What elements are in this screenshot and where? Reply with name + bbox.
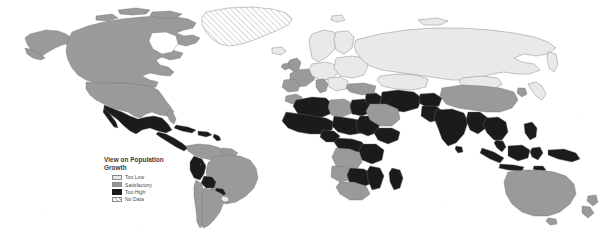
legend-item-no-data: No Data [104,196,192,202]
legend-item-satisfactory: Satisfactory [104,182,192,188]
legend-title: View on Population Growth [104,156,192,171]
legend-swatch-too-low [112,175,122,180]
world-map-figure: View on Population Growth Too Low Satisf… [0,0,607,249]
legend-item-too-high: Too High [104,189,192,195]
legend-item-too-low: Too Low [104,174,192,180]
legend-swatch-no-data [112,197,122,202]
legend-label-too-low: Too Low [125,174,144,180]
legend-label-satisfactory: Satisfactory [125,182,152,188]
legend-label-no-data: No Data [125,196,144,202]
legend-swatch-satisfactory [112,182,122,187]
map-legend: View on Population Growth Too Low Satisf… [104,156,192,204]
legend-swatch-too-high [112,189,122,194]
legend-label-too-high: Too High [125,189,145,195]
world-map-svg [0,0,607,249]
region-libya [328,99,352,117]
